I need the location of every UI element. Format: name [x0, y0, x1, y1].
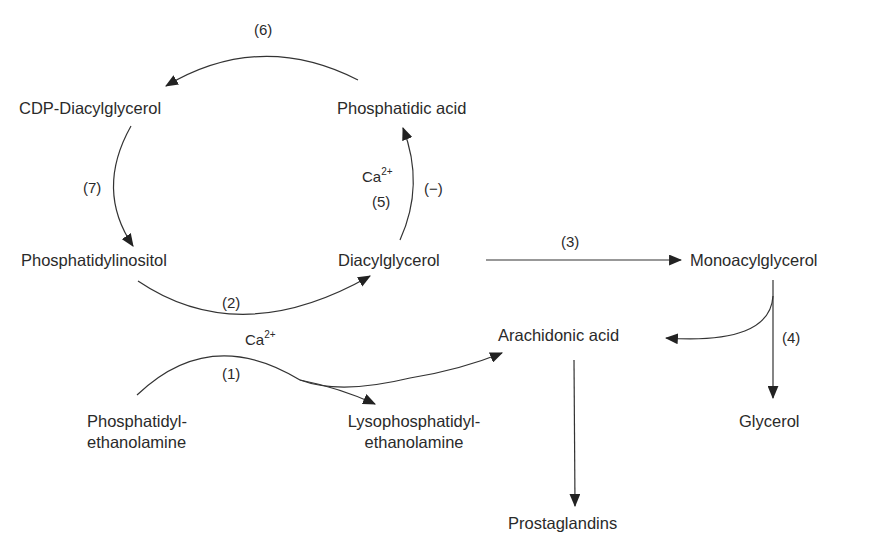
arrow-step-6	[166, 56, 358, 86]
node-phosphatidylethanolamine: Phosphatidyl- ethanolamine	[87, 413, 187, 450]
arrow-step-7	[113, 126, 133, 246]
node-prostaglandins: Prostaglandins	[508, 515, 617, 532]
arrow-step-1	[137, 356, 375, 404]
step-label-6: (6)	[254, 22, 272, 37]
cofactor-ca-step5: Ca2+	[362, 167, 393, 184]
node-lpe-line2: ethanolamine	[340, 434, 488, 451]
node-pe-line2: ethanolamine	[87, 434, 187, 451]
node-pe-line1: Phosphatidyl-	[87, 413, 187, 430]
arrow-step-1-arachidonic	[300, 353, 502, 387]
node-diacylglycerol: Diacylglycerol	[338, 252, 440, 269]
node-arachidonic-acid: Arachidonic acid	[498, 327, 619, 344]
arrow-step-2	[138, 276, 370, 314]
node-phosphatidylinositol: Phosphatidylinositol	[21, 252, 167, 269]
arrow-arachidonic-prostaglandins	[574, 360, 575, 506]
inhibition-label: (−)	[424, 181, 443, 196]
arrow-mag-to-arachidonic	[666, 296, 773, 339]
node-monoacylglycerol: Monoacylglycerol	[690, 252, 817, 269]
step-label-2: (2)	[222, 295, 240, 310]
node-phosphatidic-acid: Phosphatidic acid	[337, 100, 466, 117]
node-cdp-diacylglycerol: CDP-Diacylglycerol	[19, 100, 161, 117]
step-label-7: (7)	[83, 180, 101, 195]
arrow-step-5	[400, 128, 413, 240]
step-label-1: (1)	[222, 366, 240, 381]
step-label-4: (4)	[782, 330, 800, 345]
pathway-arrows	[0, 0, 882, 556]
cofactor-ca-step1-2: Ca2+	[245, 330, 276, 347]
step-label-3: (3)	[561, 234, 579, 249]
node-lpe-line1: Lysophosphatidyl-	[340, 413, 488, 430]
pathway-diagram: CDP-Diacylglycerol Phosphatidic acid Pho…	[0, 0, 882, 556]
node-lysophosphatidylethanolamine: Lysophosphatidyl- ethanolamine	[340, 413, 488, 450]
step-label-5: (5)	[372, 194, 390, 209]
node-glycerol: Glycerol	[739, 413, 800, 430]
